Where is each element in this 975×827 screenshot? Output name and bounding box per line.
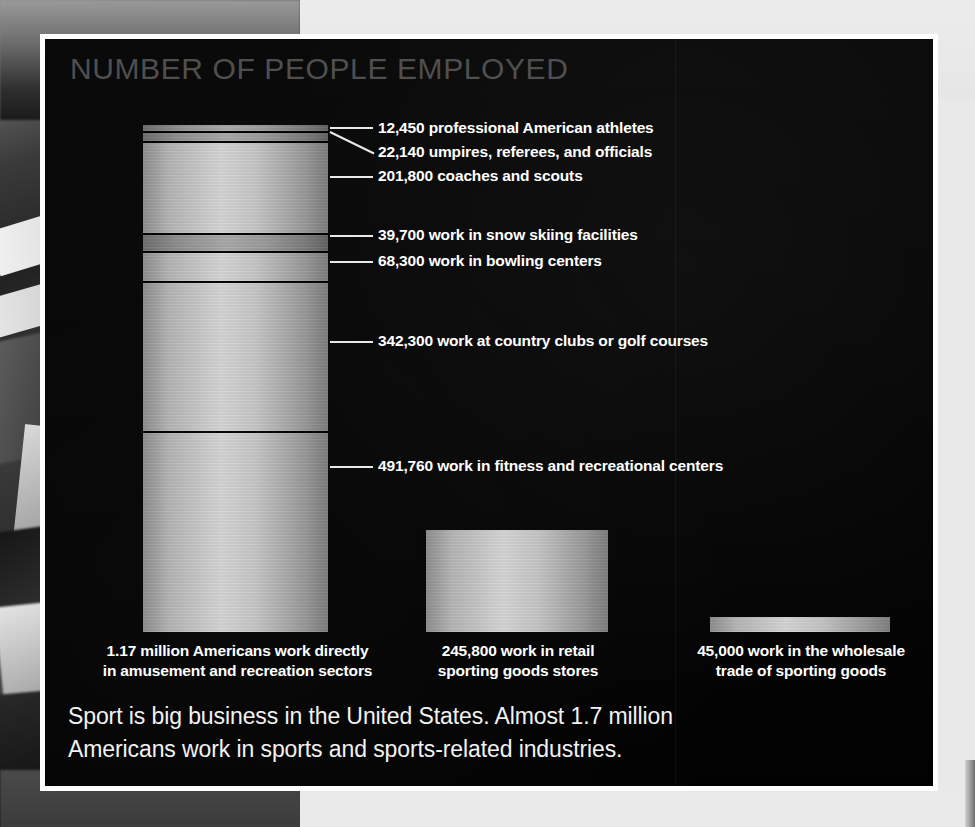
bar-segment-retail <box>426 530 608 632</box>
bar-wholesale-sporting-goods <box>710 617 890 632</box>
callout-coaches: 201,800 coaches and scouts <box>378 167 583 185</box>
caption-line-2: sporting goods stores <box>420 661 616 681</box>
summary-line-1: Sport is big business in the United Stat… <box>68 700 828 733</box>
bar-segment-umpires <box>143 133 328 141</box>
bar-amusement-recreation <box>143 125 328 632</box>
callout-athletes: 12,450 professional American athletes <box>378 119 654 137</box>
leader-line-fitness <box>330 466 373 468</box>
caption-line-2: in amusement and recreation sectors <box>60 661 415 681</box>
callout-umpires: 22,140 umpires, referees, and officials <box>378 143 652 161</box>
bar-segment-fitness-recreation <box>143 433 328 632</box>
summary-paragraph: Sport is big business in the United Stat… <box>68 700 828 765</box>
summary-line-2: Americans work in sports and sports-rela… <box>68 733 828 766</box>
leader-line-bowling <box>330 261 373 263</box>
bar-segment-wholesale <box>710 617 890 632</box>
caption-line-1: 1.17 million Americans work directly <box>60 641 415 661</box>
callout-country-clubs: 342,300 work at country clubs or golf co… <box>378 332 708 350</box>
caption-line-2: trade of sporting goods <box>670 661 932 681</box>
leader-line-athletes <box>330 127 373 129</box>
bar-segment-country-clubs-golf <box>143 283 328 431</box>
callout-snow-skiing: 39,700 work in snow skiing facilities <box>378 226 638 244</box>
leader-line-country-clubs <box>330 341 373 343</box>
bar-segment-bowling <box>143 253 328 281</box>
caption-retail-sporting-goods: 245,800 work in retail sporting goods st… <box>420 641 616 681</box>
callout-fitness: 491,760 work in fitness and recreational… <box>378 457 723 475</box>
bar-segment-snow-skiing <box>143 235 328 251</box>
page-title: NUMBER OF PEOPLE EMPLOYED <box>70 52 568 86</box>
infographic-panel: NUMBER OF PEOPLE EMPLOYED 12, <box>45 39 933 786</box>
caption-amusement-recreation: 1.17 million Americans work directly in … <box>60 641 415 681</box>
caption-line-1: 245,800 work in retail <box>420 641 616 661</box>
bar-segment-coaches <box>143 143 328 233</box>
page-faint-header <box>330 0 950 12</box>
page-right-edge <box>965 760 975 827</box>
bar-retail-sporting-goods <box>426 530 608 632</box>
leader-line-snow-skiing <box>330 235 373 237</box>
caption-line-1: 45,000 work in the wholesale <box>670 641 932 661</box>
callout-bowling: 68,300 work in bowling centers <box>378 252 602 270</box>
leader-line-coaches <box>330 176 373 178</box>
caption-wholesale-sporting-goods: 45,000 work in the wholesale trade of sp… <box>670 641 932 681</box>
